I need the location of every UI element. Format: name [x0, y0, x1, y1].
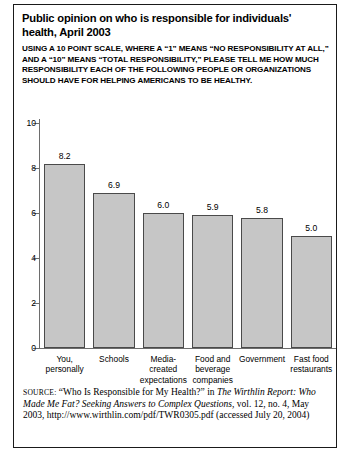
category-label-line: beverage [184, 364, 241, 374]
source-text-1: “Who Is Responsible for My Health?” in [56, 387, 216, 397]
bar-value-label: 5.0 [291, 224, 332, 233]
y-axis-label-2: 2 [10, 299, 36, 308]
bar[interactable] [143, 213, 184, 348]
figure-panel: Public opinion on who is responsible for… [13, 4, 337, 448]
bar-value-label: 5.8 [241, 206, 282, 215]
category-label-line: restaurants [283, 364, 340, 374]
y-axis-label-0: 0 [10, 344, 36, 353]
bar[interactable] [291, 236, 332, 349]
bar-chart-plot: 0246810 8.26.96.05.95.85.0 You,personall… [14, 109, 338, 357]
source-citation: SOURCE: “Who Is Responsible for My Healt… [23, 387, 331, 422]
chart-title: Public opinion on who is responsible for… [22, 12, 328, 39]
x-axis-baseline [39, 348, 336, 349]
y-axis-label-10: 10 [10, 119, 36, 128]
y-axis-line [39, 119, 40, 349]
bar-value-label: 6.0 [143, 201, 184, 210]
category-label-line: Fast food [283, 354, 340, 364]
chart-question-text: USING A 10 POINT SCALE, WHERE A “1” MEAN… [22, 44, 334, 86]
source-label: SOURCE: [23, 388, 56, 397]
bar[interactable] [44, 164, 85, 349]
question-line-3: RESPONSIBILITY EACH OF THE FOLLOWING PEO… [22, 65, 334, 76]
bar-value-label: 5.9 [192, 203, 233, 212]
y-axis-label-4: 4 [10, 254, 36, 263]
bar-value-label: 6.9 [93, 181, 134, 190]
y-axis-label-6: 6 [10, 209, 36, 218]
bar[interactable] [93, 193, 134, 348]
question-line-1: USING A 10 POINT SCALE, WHERE A “1” MEAN… [22, 44, 334, 55]
question-line-2: AND A “10” MEANS “TOTAL RESPONSIBILITY,”… [22, 55, 334, 66]
bar[interactable] [192, 215, 233, 348]
category-label-line: companies [184, 375, 241, 385]
category-label-line: personally [36, 364, 93, 374]
bar-value-label: 8.2 [44, 152, 85, 161]
question-line-4: SHOULD HAVE FOR HELPING AMERICANS TO BE … [22, 76, 334, 87]
category-label: Fast foodrestaurants [283, 354, 340, 375]
y-axis-label-8: 8 [10, 164, 36, 173]
bar[interactable] [241, 218, 282, 349]
